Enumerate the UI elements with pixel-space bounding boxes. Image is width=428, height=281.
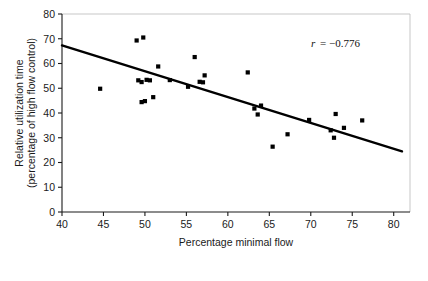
x-tick-label: 40 [56,218,68,230]
y-tick-label: 80 [43,8,55,20]
data-point [140,80,144,84]
data-points [98,35,364,148]
y-tick-label: 30 [43,132,55,144]
data-point [98,87,102,91]
data-point [203,73,207,77]
correlation-symbol: r [311,37,316,49]
x-axis-title: Percentage minimal flow [179,236,294,248]
data-point [143,99,147,103]
x-axis: 404550556065707580 [56,212,410,230]
data-point [246,70,250,74]
fit-line [62,45,402,151]
data-point [186,85,190,89]
data-point [271,145,275,149]
y-tick-label: 20 [43,156,55,168]
y-axis-title-line1: Relative utilization time [13,59,25,167]
data-point [148,78,152,82]
y-tick-label: 40 [43,107,55,119]
y-axis-title-line2: (percentage of high flow control) [25,38,37,188]
data-point [332,136,336,140]
plot-canvas: 404550556065707580 01020304050607080 Per… [0,0,428,281]
correlation-annotation: r= −0.776 [311,37,360,49]
x-tick-label: 55 [181,218,193,230]
data-point [342,126,346,130]
data-point [156,64,160,68]
data-point [307,118,311,122]
data-point [201,80,205,84]
x-tick-label: 80 [388,218,400,230]
data-point [259,103,263,107]
y-tick-label: 10 [43,181,55,193]
y-tick-label: 60 [43,57,55,69]
data-point [151,95,155,99]
x-tick-label: 45 [98,218,110,230]
regression-line [62,45,402,151]
scatter-plot-figure: 404550556065707580 01020304050607080 Per… [0,0,428,281]
x-tick-label: 70 [305,218,317,230]
data-point [360,118,364,122]
axis-labels: Percentage minimal flowRelative utilizat… [13,38,294,248]
x-tick-label: 60 [222,218,234,230]
x-tick-label: 65 [263,218,275,230]
data-point [168,78,172,82]
x-tick-label: 75 [346,218,358,230]
data-point [329,128,333,132]
y-tick-label: 50 [43,82,55,94]
data-point [252,106,256,110]
y-axis: 01020304050607080 [43,8,62,218]
data-point [193,55,197,59]
correlation-value: = −0.776 [320,37,360,49]
data-point [135,38,139,42]
y-tick-label: 70 [43,33,55,45]
y-tick-label: 0 [49,206,55,218]
x-tick-label: 50 [139,218,151,230]
data-point [285,132,289,136]
data-point [256,112,260,116]
data-point [141,35,145,39]
data-point [334,112,338,116]
